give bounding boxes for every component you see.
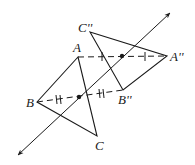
- label-a2: A'': [169, 49, 184, 64]
- label-a: A: [72, 40, 81, 55]
- label-c2: C'': [78, 20, 92, 35]
- midpoint-dot: [77, 95, 81, 99]
- tick-mark: [60, 95, 61, 104]
- label-b: B: [26, 95, 34, 110]
- label-c: C: [95, 138, 104, 153]
- reflection-diagram: A B C A'' B'' C'': [0, 0, 195, 165]
- tick-mark: [103, 89, 104, 98]
- midpoint-dot: [120, 54, 124, 58]
- triangle-abc: [37, 57, 97, 136]
- tick-mark: [56, 95, 57, 104]
- label-b2: B'': [118, 92, 132, 107]
- tick-mark: [99, 89, 100, 98]
